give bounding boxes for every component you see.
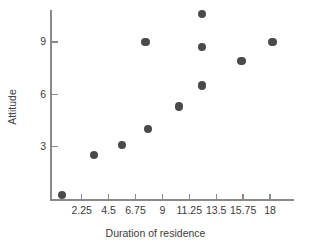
- y-tick-mark: [52, 94, 58, 95]
- y-tick-label: 9: [24, 36, 46, 47]
- y-tick-mark: [52, 41, 58, 42]
- y-tick-label: 6: [24, 89, 46, 100]
- data-point: [141, 38, 149, 46]
- data-point: [118, 141, 126, 149]
- y-tick-mark: [52, 146, 58, 147]
- x-tick-mark: [242, 194, 243, 200]
- y-axis-title: Attitude: [6, 72, 18, 142]
- data-point: [198, 81, 206, 89]
- data-point: [268, 38, 276, 46]
- data-point: [58, 191, 66, 199]
- x-axis-line: [50, 199, 294, 201]
- y-axis-line: [50, 10, 52, 200]
- x-tick-mark: [162, 194, 163, 200]
- data-point: [237, 57, 245, 65]
- scatter-plot-figure: 369 2.254.56.75911.2513.515.7518 Duratio…: [0, 0, 311, 246]
- x-tick-label: 18: [252, 205, 288, 216]
- x-tick-mark: [189, 194, 190, 200]
- x-tick-mark: [81, 194, 82, 200]
- x-tick-mark: [216, 194, 217, 200]
- plot-area: 369 2.254.56.75911.2513.515.7518 Duratio…: [0, 0, 311, 246]
- data-point: [198, 43, 206, 51]
- x-tick-mark: [135, 194, 136, 200]
- data-point: [198, 10, 206, 18]
- x-axis-title: Duration of residence: [0, 227, 311, 239]
- data-point: [175, 102, 183, 110]
- data-point: [144, 125, 152, 133]
- data-point: [90, 151, 98, 159]
- y-tick-label: 3: [24, 141, 46, 152]
- x-tick-mark: [108, 194, 109, 200]
- x-tick-mark: [269, 194, 270, 200]
